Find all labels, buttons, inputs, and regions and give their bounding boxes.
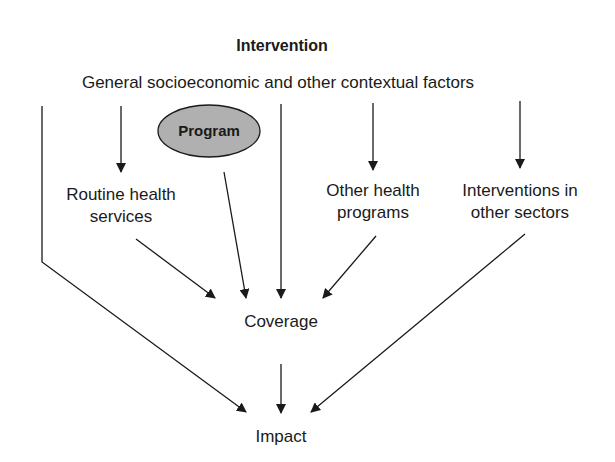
routine-health-label: Routine health services xyxy=(41,184,201,228)
other-health-line2: programs xyxy=(303,202,443,224)
edge-other-health-to-coverage xyxy=(323,236,376,298)
other-health-label: Other health programs xyxy=(303,180,443,224)
other-health-line1: Other health xyxy=(303,180,443,202)
other-sectors-line2: other sectors xyxy=(440,202,600,224)
edge-program-to-coverage xyxy=(224,172,246,298)
connector-layer xyxy=(0,0,615,462)
causal-pathway-diagram: Intervention General socioeconomic and o… xyxy=(0,0,615,462)
impact-label: Impact xyxy=(221,426,341,448)
other-sectors-line1: Interventions in xyxy=(440,180,600,202)
coverage-label: Coverage xyxy=(221,311,341,333)
program-label: Program xyxy=(158,120,260,142)
edge-other-sectors-to-impact xyxy=(311,234,525,412)
edge-routine-to-coverage xyxy=(136,239,215,298)
intervention-title: Intervention xyxy=(182,35,382,57)
routine-health-line2: services xyxy=(41,206,201,228)
context-factors-label: General socioeconomic and other contextu… xyxy=(28,72,528,94)
routine-health-line1: Routine health xyxy=(41,184,201,206)
other-sectors-label: Interventions in other sectors xyxy=(440,180,600,224)
